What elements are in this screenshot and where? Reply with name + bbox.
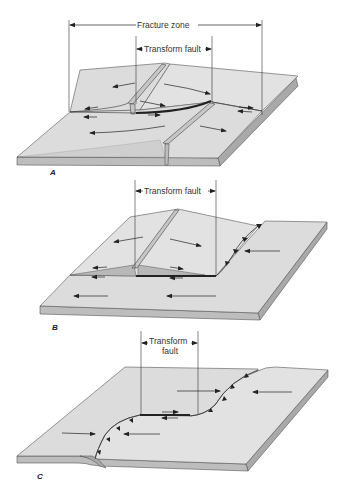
transform-fault-label-b: Transform fault: [144, 186, 201, 196]
transform-fault-label-c-line1: Transform: [149, 336, 187, 346]
ridge-lower-cross-section: [165, 144, 169, 165]
plate-front-edge: [17, 157, 220, 166]
panel-b: Transform fault B: [40, 180, 327, 332]
panel-label-b: B: [52, 323, 58, 332]
panel-label-a: A: [49, 168, 56, 177]
panel-label-c: C: [37, 472, 43, 481]
transform-fault-label-a: Transform fault: [144, 44, 201, 54]
transform-fault-label-c-line2: fault: [162, 346, 179, 356]
fracture-zone-label: Fracture zone: [137, 20, 190, 30]
ridge-upper-cross-section: [130, 104, 135, 114]
panel-c: Transform fault C: [17, 331, 328, 481]
panel-a: Fracture zone Transform fault A: [17, 19, 298, 177]
transform-fault-diagram: Fracture zone Transform fault A: [0, 0, 347, 492]
